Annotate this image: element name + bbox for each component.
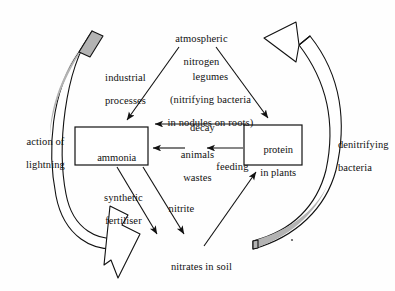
feeding-text: feeding [216, 161, 248, 172]
node-label-protein-in-plants: protein in plants [242, 132, 304, 191]
protein-line1: protein [263, 144, 293, 155]
denitrifying-line1: denitrifying [338, 139, 389, 150]
process-label-synthetic-fertiliser: synthetic fertiliser [82, 180, 154, 238]
denitrifying-line2: bacteria [338, 162, 372, 173]
nitrite-text: nitrite [169, 203, 195, 214]
scan-speck [291, 239, 293, 241]
process-label-feeding: feeding [203, 149, 251, 184]
denitrifying-band-arrowhead [264, 22, 310, 62]
protein-line2: in plants [260, 167, 296, 178]
lightning-band-cap [79, 31, 103, 57]
legumes-line1: legumes [193, 71, 229, 82]
process-label-action-of-lightning: action of lightning [9, 124, 71, 182]
nitrates-text: nitrates in soil [171, 261, 232, 272]
nitrogen-cycle-diagram: atmospheric nitrogen ammonia protein in … [0, 0, 395, 291]
process-label-industrial-processes: industrial processes [85, 60, 155, 118]
synthetic-line1: synthetic [104, 192, 143, 203]
lightning-line1: action of [26, 136, 64, 147]
node-label-ammonia: ammonia [75, 140, 148, 175]
process-label-denitrifying-bacteria: denitrifying bacteria [327, 127, 395, 185]
legumes-line2: (nitrifying bacteria [170, 94, 251, 105]
industrial-line1: industrial [105, 72, 146, 83]
lightning-line2: lightning [26, 159, 65, 170]
denitrifying-band-cap [253, 240, 258, 249]
ammonia-text: ammonia [97, 152, 136, 163]
synthetic-line2: fertiliser [105, 215, 142, 226]
process-label-nitrite: nitrite [153, 191, 199, 226]
decay-text: decay [190, 122, 215, 133]
node-label-nitrates-in-soil: nitrates in soil [155, 249, 237, 284]
industrial-line2: processes [105, 95, 146, 106]
atmospheric-nitrogen-line1: atmospheric [175, 33, 227, 44]
